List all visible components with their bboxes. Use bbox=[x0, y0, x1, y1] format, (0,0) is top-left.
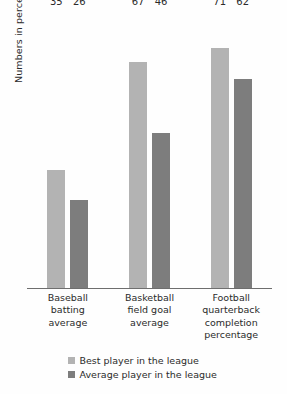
category-label-line: field goal bbox=[109, 304, 191, 316]
bar-football-average[interactable]: 62 bbox=[234, 10, 252, 288]
category-label-line: quarterback bbox=[190, 304, 272, 316]
bar-group-basketball: 67 46 bbox=[109, 10, 191, 288]
category-label-baseball: Baseball batting average bbox=[27, 292, 109, 329]
bar-rect[interactable] bbox=[211, 48, 229, 288]
category-label-line: Football bbox=[190, 292, 272, 304]
category-label-football: Football quarterback completion percenta… bbox=[190, 292, 272, 342]
bar-basketball-best[interactable]: 67 bbox=[129, 10, 147, 288]
bar-basketball-average[interactable]: 46 bbox=[152, 10, 170, 288]
bar-groups: 35 26 67 46 71 62 bbox=[27, 10, 272, 288]
bar-baseball-average[interactable]: 26 bbox=[70, 10, 88, 288]
category-label-line: completion bbox=[190, 317, 272, 329]
category-label-line: average bbox=[27, 317, 109, 329]
bar-baseball-best[interactable]: 35 bbox=[47, 10, 65, 288]
bar-value-label: 46 bbox=[155, 0, 168, 7]
chart-legend: Best player in the league Average player… bbox=[0, 355, 287, 380]
bar-value-label: 35 bbox=[50, 0, 63, 7]
category-label-basketball: Basketball field goal average bbox=[109, 292, 191, 329]
category-label-line: Baseball bbox=[27, 292, 109, 304]
legend-swatch-icon bbox=[68, 371, 75, 378]
x-axis-category-labels: Baseball batting average Basketball fiel… bbox=[27, 292, 272, 342]
bar-group-football: 71 62 bbox=[190, 10, 272, 288]
category-label-line: batting bbox=[27, 304, 109, 316]
legend-label: Average player in the league bbox=[80, 369, 217, 380]
bar-value-label: 71 bbox=[213, 0, 226, 7]
bar-rect[interactable] bbox=[234, 79, 252, 288]
legend-label: Best player in the league bbox=[80, 355, 199, 366]
bar-rect[interactable] bbox=[47, 170, 65, 288]
bar-football-best[interactable]: 71 bbox=[211, 10, 229, 288]
bar-group-baseball: 35 26 bbox=[27, 10, 109, 288]
bar-value-label: 62 bbox=[236, 0, 249, 7]
category-label-line: average bbox=[109, 317, 191, 329]
y-axis-title: Numbers in percent bbox=[13, 0, 24, 100]
bar-chart: Numbers in percent 35 26 67 46 bbox=[0, 0, 287, 394]
bar-rect[interactable] bbox=[70, 200, 88, 288]
bar-rect[interactable] bbox=[152, 133, 170, 288]
category-label-line: Basketball bbox=[109, 292, 191, 304]
legend-item-average-player[interactable]: Average player in the league bbox=[68, 369, 220, 380]
x-axis-line bbox=[27, 288, 272, 289]
category-label-line: percentage bbox=[190, 329, 272, 341]
bar-value-label: 26 bbox=[73, 0, 86, 7]
legend-item-best-player[interactable]: Best player in the league bbox=[68, 355, 220, 366]
bar-value-label: 67 bbox=[132, 0, 145, 7]
bar-rect[interactable] bbox=[129, 62, 147, 288]
legend-swatch-icon bbox=[68, 357, 75, 364]
